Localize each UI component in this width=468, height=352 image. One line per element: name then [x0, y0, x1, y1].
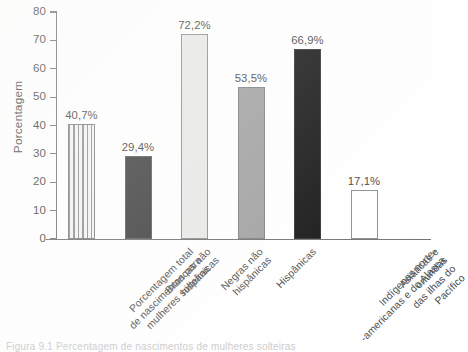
y-tick-label-20: 20	[0, 175, 46, 189]
y-tick-label-text: 30	[0, 147, 46, 159]
y-tick-label-text: 40	[0, 119, 46, 131]
bar-1	[68, 124, 95, 239]
bar-value-label-5: 66,9%	[278, 34, 338, 46]
y-tick-50	[50, 97, 56, 98]
y-tick-label-text: 10	[0, 204, 46, 216]
y-tick-30	[50, 153, 56, 154]
y-tick-label-80: 80	[0, 5, 46, 19]
category-label-3: Negras não hispânicas	[218, 246, 274, 302]
y-tick-label-50: 50	[0, 90, 46, 104]
y-tick-20	[50, 182, 56, 183]
y-tick-label-10: 10	[0, 204, 46, 218]
bar-5	[294, 49, 321, 239]
category-label-6: Asiáticas e oriundas das ilhas do Pacífi…	[390, 246, 468, 324]
y-tick-label-text: 50	[0, 90, 46, 102]
y-tick-label-40: 40	[0, 119, 46, 133]
bar-value-label-4: 53,5%	[221, 72, 281, 84]
y-tick-10	[50, 210, 56, 211]
y-tick-label-text: 80	[0, 5, 46, 17]
y-tick-40	[50, 125, 56, 126]
y-tick-0	[50, 238, 56, 239]
y-tick-label-text: 60	[0, 62, 46, 74]
bar-6	[351, 190, 378, 239]
bar-value-label-3: 72,2%	[165, 19, 225, 31]
y-axis-line	[56, 11, 57, 240]
figure-caption: Figura 9.1 Percentagem de nascimentos de…	[6, 341, 296, 352]
bar-2	[125, 156, 152, 239]
y-tick-label-0: 0	[0, 232, 46, 246]
bar-value-label-2: 29,4%	[108, 141, 168, 153]
y-tick-70	[50, 40, 56, 41]
y-tick-label-60: 60	[0, 62, 46, 76]
y-tick-80	[50, 11, 56, 12]
category-label-4: Hispânicas	[274, 246, 319, 291]
bar-value-label-6: 17,1%	[334, 175, 394, 187]
bar-3	[181, 34, 208, 239]
x-axis-line	[46, 239, 431, 240]
y-tick-label-30: 30	[0, 147, 46, 161]
y-tick-label-text: 70	[0, 33, 46, 45]
bar-value-label-1: 40,7%	[52, 109, 112, 121]
y-tick-60	[50, 68, 56, 69]
bar-4	[238, 87, 265, 239]
y-tick-label-70: 70	[0, 33, 46, 47]
y-tick-label-text: 0	[0, 232, 46, 244]
y-tick-label-text: 20	[0, 175, 46, 187]
